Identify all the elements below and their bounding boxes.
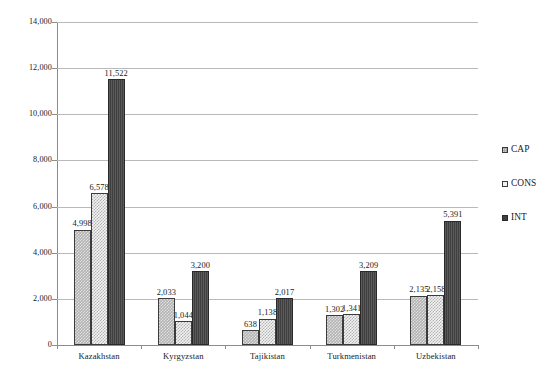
bar-int-turkmenistan[interactable]: 3,209: [360, 271, 377, 345]
x-axis-tick: [57, 345, 58, 349]
legend-swatch-cons-icon: [502, 181, 508, 187]
y-axis-tick-label: 2,000: [0, 295, 52, 303]
bar-group: 4,9986,57811,522: [74, 22, 125, 345]
y-axis-tick-label: 6,000: [0, 203, 52, 211]
bar-cap-tajikistan[interactable]: 638: [242, 330, 259, 345]
y-axis-tick-label: 4,000: [0, 249, 52, 257]
bar-group: 6381,1382,017: [242, 22, 293, 345]
bar-value-label: 3,200: [191, 262, 210, 270]
y-axis-tick-label: 10,000: [0, 110, 52, 118]
bar-value-label: 11,522: [104, 70, 127, 78]
x-axis-tick: [478, 345, 479, 349]
legend-label: INT: [511, 213, 527, 222]
bar-int-kazakhstan[interactable]: 11,522: [108, 79, 125, 345]
plot-area: 4,9986,57811,5222,0331,0443,2006381,1382…: [57, 22, 478, 345]
x-axis-tick: [141, 345, 142, 349]
y-axis-tick-label: 12,000: [0, 64, 52, 72]
legend-label: CONS: [511, 179, 536, 188]
bar-int-uzbekistan[interactable]: 5,391: [444, 221, 461, 345]
x-axis-category-label: Kyrgyzstan: [163, 352, 203, 361]
bar-cons-kazakhstan[interactable]: 6,578: [91, 193, 108, 345]
legend-item-int[interactable]: INT: [502, 212, 536, 223]
bar-cons-tajikistan[interactable]: 1,138: [259, 319, 276, 345]
bar-value-label: 2,017: [275, 289, 294, 297]
x-axis-tick: [394, 345, 395, 349]
legend-item-cap[interactable]: CAP: [502, 144, 536, 155]
bar-cap-turkmenistan[interactable]: 1,302: [326, 315, 343, 345]
legend-swatch-cap-icon: [502, 147, 508, 153]
bar-value-label: 2,033: [157, 289, 176, 297]
chart-legend: CAPCONSINT: [502, 144, 536, 246]
x-axis-category-label: Turkmenistan: [327, 352, 376, 361]
bar-value-label: 2,158: [426, 286, 445, 294]
y-axis-tick-label: 14,000: [0, 18, 52, 26]
legend-item-cons[interactable]: CONS: [502, 178, 536, 189]
bar-group: 1,3021,3413,209: [326, 22, 377, 345]
bar-value-label: 5,391: [443, 211, 462, 219]
bar-value-label: 3,209: [359, 262, 378, 270]
bar-cons-kyrgyzstan[interactable]: 1,044: [175, 321, 192, 345]
bar-cap-kazakhstan[interactable]: 4,998: [74, 230, 91, 345]
legend-label: CAP: [511, 145, 530, 154]
x-axis-tick: [310, 345, 311, 349]
bar-value-label: 638: [244, 321, 257, 329]
bar-cons-uzbekistan[interactable]: 2,158: [427, 295, 444, 345]
bar-chart: 14,00012,00010,0008,0006,0004,0002,0000 …: [0, 0, 555, 384]
bar-cap-kyrgyzstan[interactable]: 2,033: [158, 298, 175, 345]
y-axis-tick-label: 8,000: [0, 156, 52, 164]
x-axis-category-label: Kazakhstan: [79, 352, 120, 361]
bar-group: 2,1352,1585,391: [410, 22, 461, 345]
bar-value-label: 4,998: [72, 220, 91, 228]
x-axis-category-label: Uzbekistan: [416, 352, 456, 361]
legend-swatch-int-icon: [502, 215, 508, 221]
bar-value-label: 1,138: [258, 309, 277, 317]
y-gridline: [57, 345, 478, 346]
bar-int-tajikistan[interactable]: 2,017: [276, 298, 293, 345]
x-axis-category-label: Tajikistan: [250, 352, 285, 361]
bar-group: 2,0331,0443,200: [158, 22, 209, 345]
bar-value-label: 6,578: [89, 184, 108, 192]
bar-cons-turkmenistan[interactable]: 1,341: [343, 314, 360, 345]
bar-value-label: 1,341: [342, 305, 361, 313]
x-axis-tick: [225, 345, 226, 349]
bar-value-label: 1,044: [174, 312, 193, 320]
bar-int-kyrgyzstan[interactable]: 3,200: [192, 271, 209, 345]
bar-cap-uzbekistan[interactable]: 2,135: [410, 296, 427, 345]
y-axis-tick-label: 0: [0, 341, 52, 349]
